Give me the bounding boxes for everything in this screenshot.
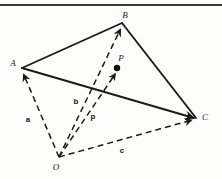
vertex-label-B: B [122, 10, 128, 20]
vector-label-p: p [91, 112, 96, 121]
vertex-label-A: A [9, 58, 16, 68]
figure-root: A B C O P a b p c [0, 0, 222, 179]
vertex-label-C: C [202, 112, 209, 122]
edge-A-C [22, 68, 194, 118]
edge-A-B [22, 23, 122, 68]
vector-label-b: b [74, 97, 79, 106]
vector-label-a: a [26, 115, 31, 124]
vertex-label-O: O [53, 162, 60, 172]
edge-B-C [122, 23, 196, 118]
vector-O-C [59, 120, 192, 157]
vector-diagram-canvas: A B C O P a b p c [0, 0, 222, 179]
vertex-label-P: P [117, 53, 124, 63]
point-P-dot [114, 65, 120, 71]
vector-label-c: c [120, 146, 125, 155]
